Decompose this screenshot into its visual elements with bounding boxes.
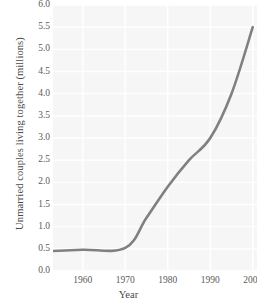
x-tick-label: 1990 bbox=[201, 276, 220, 286]
x-tick-label: 1960 bbox=[73, 276, 92, 286]
line-chart-figure: Unmarried couples living together (milli… bbox=[0, 0, 257, 306]
x-tick-label: 2000 bbox=[243, 276, 257, 286]
x-axis-title: Year bbox=[0, 289, 257, 300]
x-tick-label: 1980 bbox=[158, 276, 177, 286]
x-tick-label: 1970 bbox=[116, 276, 135, 286]
x-axis-tick-labels: 19601970198019902000 bbox=[0, 0, 257, 306]
